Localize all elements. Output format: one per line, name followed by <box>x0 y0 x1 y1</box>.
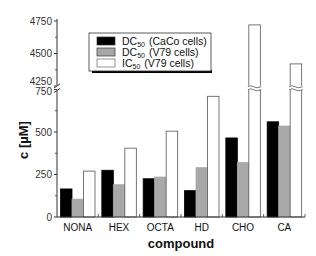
legend-swatch <box>97 37 115 45</box>
bar <box>166 131 178 217</box>
x-axis-title: compound <box>148 236 214 251</box>
bar <box>125 148 137 217</box>
category-label: OCTA <box>147 222 174 233</box>
bar <box>267 122 279 217</box>
y-tick-label: 750 <box>35 86 52 97</box>
bar <box>84 171 96 217</box>
bar <box>226 138 238 217</box>
bar <box>196 168 208 217</box>
bar <box>185 191 197 217</box>
bar <box>155 177 167 217</box>
y-tick-label: 250 <box>35 169 52 180</box>
bar <box>143 179 155 217</box>
bar <box>279 126 291 217</box>
y-tick-label: 0 <box>46 212 52 223</box>
bar <box>249 25 260 217</box>
bar <box>208 96 220 217</box>
bar <box>72 199 84 217</box>
bar <box>102 170 114 217</box>
legend-swatch <box>97 48 115 56</box>
y-tick-label: 4500 <box>30 48 53 59</box>
bar <box>113 185 125 217</box>
bar <box>237 163 249 217</box>
legend-swatch <box>97 59 115 67</box>
y-tick-label: 4750 <box>30 16 53 27</box>
y-axis-title: c [µM] <box>16 121 31 159</box>
category-label: HD <box>194 222 208 233</box>
bar-chart: NONAHEXOCTAHDCHOCA0250500750425045004750… <box>0 0 316 256</box>
category-label: NONA <box>63 222 92 233</box>
bar <box>61 189 73 217</box>
category-label: CHO <box>232 222 254 233</box>
category-label: CA <box>277 222 291 233</box>
y-tick-label: 4250 <box>30 76 53 87</box>
y-tick-label: 500 <box>35 127 52 138</box>
category-label: HEX <box>109 222 130 233</box>
